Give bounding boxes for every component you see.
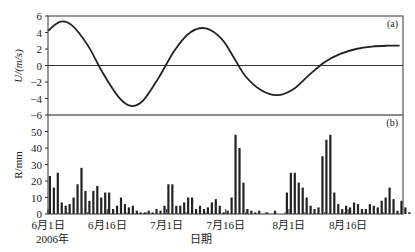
y-tick-label-a: 2	[37, 43, 43, 55]
x-tick-label: 8月16日	[329, 219, 368, 231]
rain-bar	[353, 202, 355, 214]
rain-bar	[104, 193, 106, 214]
rain-bar	[385, 198, 387, 215]
rain-bar	[199, 206, 201, 214]
rain-bar	[317, 207, 319, 214]
rain-bar	[80, 168, 82, 214]
y-tick-label-a: −2	[30, 76, 42, 88]
y-tick-label-a: 6	[37, 10, 43, 22]
rain-bar	[321, 156, 323, 214]
panel-label-a: (a)	[387, 18, 398, 30]
rain-bar	[337, 204, 339, 214]
rain-bar	[313, 209, 315, 214]
y-tick-label-b: 10	[31, 192, 43, 204]
rain-bar	[357, 204, 359, 214]
rain-bar	[84, 191, 86, 214]
rain-bar	[53, 188, 55, 214]
rain-bar	[128, 207, 130, 214]
x-tick-label: 6月1日	[32, 219, 65, 231]
y-axis-title-b: R/mm	[12, 151, 24, 179]
rain-bar	[76, 184, 78, 214]
y-tick-label-a: 4	[37, 27, 43, 39]
x-tick-label: 7月1日	[150, 219, 183, 231]
rain-bar	[73, 198, 75, 215]
rain-bar	[132, 206, 134, 214]
rain-bar	[96, 186, 98, 214]
rain-bar	[175, 206, 177, 214]
y-tick-label-b: 20	[31, 175, 43, 187]
rain-bar	[155, 209, 157, 214]
rain-bar	[211, 202, 213, 214]
rain-bar	[302, 188, 304, 214]
rain-bar	[69, 204, 71, 214]
rain-bar	[404, 207, 406, 214]
rain-bar	[286, 193, 288, 214]
rain-bar	[298, 183, 300, 214]
rain-bar	[392, 199, 394, 214]
panel-a-wind-speed: 6420−2−4−6	[30, 10, 403, 121]
rain-bar	[219, 206, 221, 214]
rain-bar	[203, 209, 205, 214]
rain-bar	[108, 193, 110, 214]
rain-bar	[329, 135, 331, 214]
rain-bar	[124, 204, 126, 214]
rain-bar	[191, 198, 193, 215]
y-tick-label-b: 50	[31, 126, 43, 138]
rain-bar	[231, 198, 233, 215]
rain-bar	[373, 206, 375, 214]
rain-bar	[167, 184, 169, 214]
rain-bar	[389, 188, 391, 214]
rain-bar	[310, 206, 312, 214]
wind-speed-curve	[48, 21, 400, 106]
rain-bar	[333, 193, 335, 214]
panel-label-b: (b)	[386, 117, 398, 129]
rain-bar	[349, 207, 351, 214]
rain-bar	[163, 206, 165, 214]
rain-bar	[215, 199, 217, 214]
y-tick-label-b: 40	[31, 142, 43, 154]
rain-bar	[290, 173, 292, 214]
rain-bar	[306, 198, 308, 215]
x-tick-label: 7月16日	[207, 219, 246, 231]
panel-b-rainfall: 504030201006月1日6月16日7月1日7月16日8月1日8月16日	[31, 126, 410, 232]
rain-bar	[369, 204, 371, 214]
rain-bar	[116, 206, 118, 214]
rain-bar	[61, 202, 63, 214]
y-tick-label-a: −4	[30, 93, 42, 105]
rain-bar	[88, 201, 90, 214]
rain-bar	[246, 209, 248, 214]
y-tick-label-a: −6	[30, 109, 42, 121]
x-tick-label: 6月16日	[88, 219, 127, 231]
rain-bar	[65, 206, 67, 214]
rain-bar	[120, 198, 122, 215]
rain-bar	[341, 209, 343, 214]
rain-bar	[345, 206, 347, 214]
rain-bar	[183, 202, 185, 214]
rain-bar	[381, 201, 383, 214]
x-tick-label: 8月1日	[272, 219, 305, 231]
rain-bar	[57, 173, 59, 214]
x-axis-title: 日期	[190, 233, 212, 245]
rain-bar	[179, 206, 181, 214]
rain-bar	[195, 209, 197, 214]
rain-bar	[187, 198, 189, 215]
rain-bar	[361, 209, 363, 214]
rain-bar	[365, 209, 367, 214]
rain-bar	[408, 212, 410, 214]
rain-bar	[49, 176, 51, 214]
rain-bar	[112, 209, 114, 214]
y-tick-label-b: 30	[31, 159, 43, 171]
rain-bar	[234, 135, 236, 214]
rain-bar	[242, 183, 244, 214]
plot-frame	[48, 16, 403, 214]
y-tick-label-a: 0	[37, 60, 43, 72]
rain-bar	[238, 148, 240, 214]
rain-bar	[100, 198, 102, 215]
rain-bar	[207, 207, 209, 214]
rain-bar	[294, 173, 296, 214]
y-axis-title-a: U/(m/s)	[12, 49, 25, 83]
rain-bar	[400, 201, 402, 214]
year-label: 2006年	[36, 232, 69, 245]
rain-bar	[325, 140, 327, 214]
rain-bar	[377, 207, 379, 214]
